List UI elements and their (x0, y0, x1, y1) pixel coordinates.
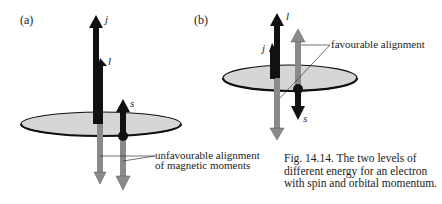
unfavourable-annotation-line2: of magnetic moments (155, 159, 250, 171)
favourable-annotation: favourable alignment (331, 38, 425, 50)
magnetic-moment-spin-arrow-a (116, 138, 130, 190)
l-label-a: l (108, 55, 111, 67)
figure-caption: Fig. 14.14. The two levels of different … (284, 152, 442, 190)
l-label-b: l (286, 10, 289, 22)
panel-b: (b) l j s favourable alignment (194, 10, 425, 140)
panel-a-label: (a) (20, 13, 33, 27)
j-label-a: j (103, 13, 108, 25)
j-label-b: j (260, 42, 265, 54)
s-label-b: s (303, 112, 307, 124)
figure-14-14: (a) j l s unfavourable alignment of magn… (0, 0, 442, 204)
panel-b-label: (b) (194, 13, 208, 27)
s-label-a: s (130, 97, 134, 109)
panel-a: (a) j l s unfavourable alignment of magn… (20, 13, 260, 190)
